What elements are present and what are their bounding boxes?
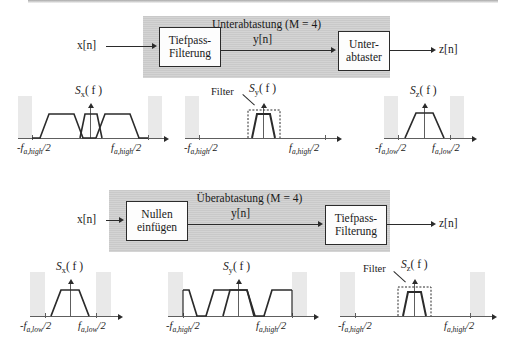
plot-bottom-sy-label: Sy( f ) [223,260,250,275]
bottom-middle-arrow-line [186,224,319,225]
plot-top-sz-xtick-left-label: -fa,low/2 [375,142,406,156]
plot-bottom-sz-filter-label: Filter [363,263,386,274]
plot-top-sz: Sz( f ) -fa,low/2 fa,low/2 [384,86,504,158]
plot-bottom-sz-xtick-right-tail: /2 [466,320,474,331]
plot-bottom-sx-xtick-left-sub: a,low [26,325,43,334]
plot-bottom-sx-xtick-left-label: -fa,low/2 [20,320,51,334]
plot-top-sy-xtick-right-label: fa,high/2 [289,142,319,156]
top-middle-arrowhead [331,47,336,53]
plot-bottom-sx-label: Sx( f ) [56,260,83,275]
plot-bottom-sx-xtick-right-label: fa,low/2 [78,320,106,334]
bottom-block-zero-insert[interactable]: Nullen einfügen [126,201,188,241]
plot-top-sx-label-arg: ( f ) [85,84,102,96]
bottom-middle-signal-label: y[n] [231,207,250,219]
plot-top-sx-xtick-left-label: -fa,high/2 [17,142,51,156]
plot-top-sx: Sx( f ) -fa,high/2 fa,high/2 [18,86,168,158]
plot-bottom-sy-xtick-right-label: fa,high/2 [256,320,286,334]
plot-top-sy-xtick-left-label: -fa,high/2 [184,142,218,156]
plot-bottom-sz-xtick-left-label: -fa,high/2 [338,320,372,334]
bottom-system-title: Überabtastung (M = 4) [109,192,390,204]
plot-top-sz-label-arg: ( f ) [419,84,436,96]
plot-bottom-sz-xtick-left-tail: /2 [364,320,372,331]
plot-top-sy-xtick-left-sub: a,high [190,147,209,156]
plot-top-sy-label: Sy( f ) [249,82,276,97]
plot-bottom-sz-label: Sz( f ) [401,258,428,273]
figure-canvas: Unterabtastung (M = 4) x[n] Tiefpass- Fi… [0,0,507,348]
plot-bottom-sz: Filter Sz( f ) -fa,high/2 fa,high/2 [340,262,505,334]
plot-bottom-sy-xtick-left-label: -fa,high/2 [166,320,200,334]
bottom-output-arrowhead [431,221,436,227]
bottom-output-signal-label: z[n] [439,217,458,229]
plot-bottom-sy-xtick-left-sub: a,high [172,325,191,334]
plot-top-sx-xtick-left-tail: /2 [43,142,51,153]
top-system-title: Unterabtastung (M = 4) [143,18,390,30]
bottom-block-zero-insert-line1: Nullen [141,208,172,221]
top-block-lowpass-line2: Filterung [169,47,211,60]
plot-top-sz-xtick-right-tail: /2 [452,142,460,153]
plot-bottom-sy-xtick-left-tail: /2 [192,320,200,331]
plot-top-sx-xtick-left-sub: a,high [23,147,42,156]
plot-top-sz-xtick-left-sub: a,low [381,147,398,156]
plot-top-sz-xtick-left-tail: /2 [398,142,406,153]
plot-bottom-sx: Sx( f ) -fa,low/2 fa,low/2 [30,262,150,334]
plot-top-sx-xtick-right-tail: /2 [133,142,141,153]
top-input-signal-label: x[n] [77,39,96,51]
plot-bottom-sz-xtick-right-sub: a,high [447,325,466,334]
top-block-lowpass[interactable]: Tiefpass- Filterung [159,27,221,67]
bottom-output-arrow-line [385,224,432,225]
plot-top-sy-xtick-right-tail: /2 [311,142,319,153]
bottom-block-zero-insert-line2: einfügen [137,221,177,234]
bottom-input-signal-label: x[n] [77,213,96,225]
bottom-block-lowpass-line1: Tiefpass- [335,212,377,225]
plot-bottom-sy-xtick-right-sub: a,high [259,325,278,334]
bottom-middle-arrowhead [318,221,323,227]
plot-top-sx-label: Sx( f ) [75,84,102,99]
plot-bottom-sy-xtick-right-tail: /2 [278,320,286,331]
top-output-signal-label: z[n] [439,43,458,55]
top-block-downsampler-line1: Unter- [349,38,379,51]
plot-top-sz-xtick-right-sub: a,low [435,147,452,156]
plot-top-sz-label: Sz( f ) [410,84,437,99]
bottom-input-arrowhead [119,217,124,223]
top-middle-signal-label: y[n] [253,33,272,45]
plot-top-sy-xtick-left-tail: /2 [210,142,218,153]
top-input-arrow-line [106,46,152,47]
plot-bottom-sz-xtick-right-label: fa,high/2 [444,320,474,334]
plot-bottom-sz-label-arg: ( f ) [410,258,427,270]
plot-bottom-sx-xtick-left-tail: /2 [43,320,51,331]
bottom-block-lowpass-line2: Filterung [335,225,377,238]
plot-top-sy-xtick-right-sub: a,high [292,147,311,156]
bottom-input-arrow-line [106,220,120,221]
top-middle-arrow-line [219,50,332,51]
plot-bottom-sy: Sy( f ) -fa,high/2 fa,high/2 [168,262,328,334]
top-output-arrow-line [388,50,432,51]
plot-bottom-sy-label-arg: ( f ) [233,260,250,272]
top-input-arrowhead [152,43,157,49]
plot-bottom-sx-xtick-right-tail: /2 [98,320,106,331]
plot-top-sy-label-arg: ( f ) [259,82,276,94]
plot-top-sx-xtick-right-sub: a,high [114,147,133,156]
plot-bottom-sz-xtick-left-sub: a,high [344,325,363,334]
top-block-lowpass-line1: Tiefpass- [169,34,211,47]
bottom-block-lowpass[interactable]: Tiefpass- Filterung [325,205,387,245]
plot-top-sy-filter-label: Filter [211,86,234,97]
plot-top-sx-xtick-right-label: fa,high/2 [111,142,141,156]
plot-top-sz-xtick-right-label: fa,low/2 [432,142,460,156]
scan-artifact-bar [28,0,498,3]
plot-bottom-sx-xtick-right-sub: a,low [81,325,98,334]
plot-bottom-sx-label-arg: ( f ) [66,260,83,272]
top-block-downsampler-line2: abtaster [346,51,382,64]
plot-top-sy: Filter Sy( f ) -fa,high/2 fa,high/2 [185,86,345,158]
top-output-arrowhead [431,47,436,53]
top-block-downsampler[interactable]: Unter- abtaster [338,31,390,71]
